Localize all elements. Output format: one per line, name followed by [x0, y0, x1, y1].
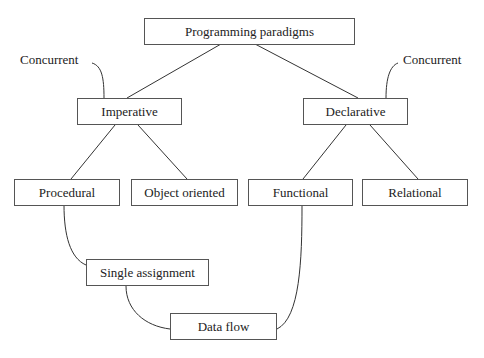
edge-concurrent-declarative [386, 63, 398, 98]
edge-procedural-single-assignment [64, 205, 86, 265]
edge-imperative-object-oriented [138, 125, 187, 179]
node-label: Object oriented [144, 185, 225, 201]
node-label: Declarative [326, 104, 386, 120]
node-object-oriented: Object oriented [131, 179, 238, 206]
edge-single-assignment-data-flow [126, 286, 170, 329]
edge-imperative-procedural [71, 125, 115, 179]
edge-concurrent-imperative [92, 63, 104, 98]
edge-root-declarative [255, 44, 358, 98]
node-declarative: Declarative [303, 98, 408, 125]
node-procedural: Procedural [14, 179, 120, 206]
node-relational: Relational [362, 179, 468, 206]
node-functional: Functional [248, 179, 353, 206]
edge-declarative-relational [370, 125, 418, 179]
node-imperative: Imperative [77, 98, 182, 125]
node-label: Procedural [39, 185, 95, 201]
edge-declarative-functional [303, 125, 346, 179]
node-single-assignment: Single assignment [86, 259, 209, 286]
node-label: Programming paradigms [185, 24, 314, 40]
edge-functional-data-flow [277, 206, 302, 329]
node-label: Data flow [198, 319, 250, 335]
node-label: Single assignment [100, 265, 195, 281]
edge-root-imperative [127, 44, 221, 98]
concurrent-label-left: Concurrent [20, 52, 78, 68]
node-label: Relational [388, 185, 441, 201]
node-label: Imperative [101, 104, 157, 120]
concurrent-label-right: Concurrent [403, 52, 461, 68]
node-label: Functional [273, 185, 329, 201]
node-data-flow: Data flow [170, 313, 277, 340]
node-programming-paradigms: Programming paradigms [144, 18, 355, 45]
